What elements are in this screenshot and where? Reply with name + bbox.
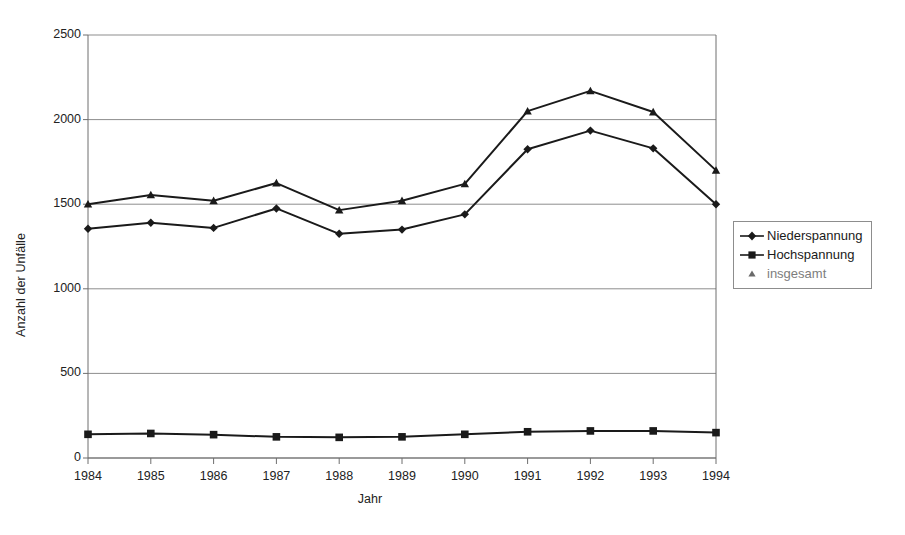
data-point-diamond (586, 126, 594, 134)
y-tick-label: 1500 (35, 196, 81, 210)
legend-item-insgesamt: insgesamt (739, 264, 862, 283)
data-point-square (84, 431, 92, 439)
data-point-diamond (209, 224, 217, 232)
data-point-square (712, 429, 720, 437)
x-tick-label: 1994 (686, 469, 746, 483)
data-point-square (461, 431, 469, 439)
square-marker-icon (739, 247, 765, 263)
x-tick-label: 1987 (246, 469, 306, 483)
chart-legend: Niederspannung Hochspannung insgesamt (733, 221, 872, 289)
data-point-diamond (84, 225, 92, 233)
data-point-diamond (398, 225, 406, 233)
legend-item-hochspannung: Hochspannung (739, 245, 862, 264)
data-point-square (649, 427, 657, 435)
y-tick-label: 2500 (35, 27, 81, 41)
y-tick-label: 500 (35, 365, 81, 379)
y-tick-label: 0 (35, 450, 81, 464)
legend-label-insgesamt: insgesamt (765, 266, 826, 281)
data-point-diamond (335, 230, 343, 238)
x-tick-label: 1984 (58, 469, 118, 483)
series-line-insgesamt (88, 91, 716, 210)
data-point-square (147, 430, 155, 438)
triangle-marker-icon (739, 266, 765, 282)
x-tick-label: 1991 (498, 469, 558, 483)
data-point-square (398, 433, 406, 441)
line-chart: Anzahl der Unfälle Jahr 2500200015001000… (0, 0, 905, 535)
series-line-niederspannung (88, 131, 716, 234)
y-tick-label: 2000 (35, 112, 81, 126)
data-point-triangle (586, 87, 594, 95)
legend-label-niederspannung: Niederspannung (765, 228, 862, 243)
data-point-diamond (147, 219, 155, 227)
x-tick-label: 1990 (435, 469, 495, 483)
data-point-square (587, 427, 595, 435)
x-tick-label: 1988 (309, 469, 369, 483)
data-point-triangle (272, 179, 280, 187)
x-tick-label: 1993 (623, 469, 683, 483)
data-point-square (335, 434, 343, 442)
data-point-square (524, 428, 532, 436)
legend-item-niederspannung: Niederspannung (739, 226, 862, 245)
data-point-diamond (272, 204, 280, 212)
legend-label-hochspannung: Hochspannung (765, 247, 854, 262)
y-tick-label: 1000 (35, 281, 81, 295)
diamond-marker-icon (739, 228, 765, 244)
x-tick-label: 1992 (560, 469, 620, 483)
x-tick-label: 1985 (121, 469, 181, 483)
y-axis-title: Anzahl der Unfälle (14, 233, 28, 337)
x-axis-title: Jahr (0, 492, 740, 506)
x-tick-label: 1986 (184, 469, 244, 483)
data-point-square (210, 431, 218, 439)
x-tick-label: 1989 (372, 469, 432, 483)
data-point-square (273, 433, 281, 441)
